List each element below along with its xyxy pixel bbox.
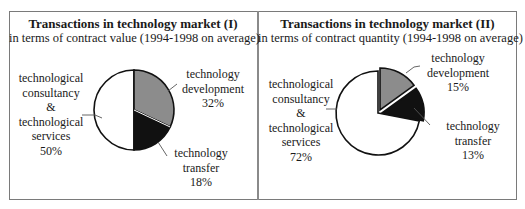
label-line: technology (161, 146, 241, 161)
label-line: consultancy (15, 86, 87, 101)
label-value: 50% (15, 144, 87, 159)
label-technology-development: technology development 32% (173, 67, 253, 111)
label-line: technology (418, 51, 498, 66)
label-value: 32% (173, 96, 253, 111)
label-line: & (15, 100, 87, 115)
label-consultancy-services: technological consultancy & technologica… (266, 77, 336, 164)
label-technology-transfer: technology transfer 18% (161, 146, 241, 190)
label-line: services (15, 129, 87, 144)
label-line: transfer (433, 134, 513, 149)
label-technology-development: technology development 15% (418, 51, 498, 95)
label-value: 13% (433, 148, 513, 163)
label-value: 18% (161, 175, 241, 190)
label-technology-transfer: technology transfer 13% (433, 119, 513, 163)
label-line: consultancy (266, 92, 336, 107)
label-line: development (173, 82, 253, 97)
label-line: development (418, 66, 498, 81)
chart-panel-value: Transactions in technology market (I) in… (9, 11, 257, 200)
label-value: 15% (418, 80, 498, 95)
slice-consultancy-services (94, 70, 134, 150)
label-line: technology (433, 119, 513, 134)
label-value: 72% (266, 150, 336, 165)
label-line: technological (15, 115, 87, 130)
label-line: & (266, 106, 336, 121)
label-line: technology (173, 67, 253, 82)
label-line: technological (266, 121, 336, 136)
label-line: services (266, 135, 336, 150)
label-line: transfer (161, 161, 241, 176)
label-line: technological (15, 71, 87, 86)
label-line: technological (266, 77, 336, 92)
label-consultancy-services: technological consultancy & technologica… (15, 71, 87, 158)
chart-panel-quantity: Transactions in technology market (II) i… (258, 11, 517, 200)
